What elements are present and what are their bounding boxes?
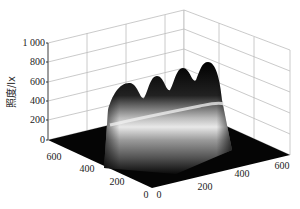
x-tick-200: 200: [198, 181, 213, 192]
z-tick-600: 600: [30, 76, 45, 87]
x-tick-600: 600: [275, 160, 290, 171]
z-tick-0: 0: [40, 134, 45, 145]
z-axis-label: 照度/lx: [5, 76, 17, 108]
x-tick-400: 400: [235, 168, 250, 179]
y-tick-400: 400: [80, 163, 95, 174]
z-tick-800: 800: [30, 56, 45, 67]
z-tick-200: 200: [30, 114, 45, 125]
y-tick-0: 0: [144, 189, 149, 200]
surface-plot: 1 000 800 600 400 200 0 照度/lx 600 400 20…: [0, 0, 300, 209]
z-tick-1000: 1 000: [23, 37, 46, 48]
z-tick-400: 400: [30, 95, 45, 106]
x-tick-0: 0: [157, 189, 162, 200]
y-tick-200: 200: [110, 176, 125, 187]
z-axis: 1 000 800 600 400 200 0 照度/lx: [5, 37, 48, 145]
y-tick-600: 600: [47, 151, 62, 162]
